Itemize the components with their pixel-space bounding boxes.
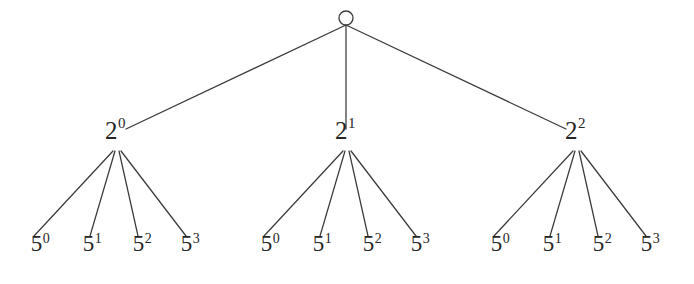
- leaf-node-label: 53: [411, 232, 430, 255]
- leaf-node-label-exponent: 2: [605, 231, 612, 246]
- leaf-node-label-base: 5: [363, 231, 375, 256]
- leaf-node-label-base: 5: [261, 231, 273, 256]
- leaf-node-label: 52: [363, 232, 382, 255]
- tree-edge-level2-to-leaf: [494, 151, 573, 236]
- leaf-node-label-exponent: 0: [43, 231, 50, 246]
- level2-edge-group: [34, 151, 646, 236]
- leaf-node-label-exponent: 1: [325, 231, 332, 246]
- leaf-node-label-exponent: 2: [145, 231, 152, 246]
- level2-node-label-base: 2: [335, 117, 348, 144]
- leaf-node-label: 51: [313, 232, 332, 255]
- leaf-node-label-exponent: 0: [273, 231, 280, 246]
- level1-edge-group: [126, 25, 566, 129]
- tree-edge-root-to-level2: [346, 25, 566, 129]
- leaf-node-label: 53: [181, 232, 200, 255]
- level2-node-label: 21: [335, 118, 355, 143]
- leaf-node-label-base: 5: [491, 231, 503, 256]
- tree-edge-level2-to-leaf: [90, 151, 115, 236]
- leaf-node-label-exponent: 0: [503, 231, 510, 246]
- leaf-node-label: 51: [83, 232, 102, 255]
- tree-edge-level2-to-leaf: [119, 151, 138, 236]
- leaf-node-label-base: 5: [313, 231, 325, 256]
- leaf-node-label-base: 5: [83, 231, 95, 256]
- leaf-node-label-base: 5: [641, 231, 653, 256]
- leaf-node-label-base: 5: [31, 231, 43, 256]
- tree-edge-level2-to-leaf: [320, 151, 345, 236]
- level2-node-label-exponent: 1: [348, 115, 356, 131]
- leaf-node-label-base: 5: [181, 231, 193, 256]
- leaf-node-label: 50: [31, 232, 50, 255]
- leaf-node-label-exponent: 1: [555, 231, 562, 246]
- leaf-node-label: 50: [491, 232, 510, 255]
- leaf-node-label: 52: [593, 232, 612, 255]
- level2-node-label-exponent: 2: [578, 115, 586, 131]
- tree-edge-level2-to-leaf: [581, 151, 646, 236]
- tree-edge-level2-to-leaf: [121, 151, 186, 236]
- level2-node-label-base: 2: [565, 117, 578, 144]
- root-node-circle: [339, 11, 353, 25]
- leaf-node-label: 52: [133, 232, 152, 255]
- leaf-node-label-base: 5: [543, 231, 555, 256]
- tree-edge-level2-to-leaf: [550, 151, 575, 236]
- leaf-node-label-exponent: 1: [95, 231, 102, 246]
- leaf-node-label: 50: [261, 232, 280, 255]
- leaf-node-label-exponent: 3: [193, 231, 200, 246]
- level2-node-label: 20: [105, 118, 125, 143]
- tree-diagram: 202122505152535051525350515253: [0, 0, 694, 284]
- tree-edge-level2-to-leaf: [579, 151, 598, 236]
- leaf-node-label-exponent: 2: [375, 231, 382, 246]
- leaf-node-label-exponent: 3: [653, 231, 660, 246]
- leaf-node-label-base: 5: [411, 231, 423, 256]
- tree-edge-level2-to-leaf: [34, 151, 113, 236]
- tree-edge-root-to-level2: [126, 25, 346, 129]
- tree-edge-level2-to-leaf: [351, 151, 416, 236]
- tree-edge-level2-to-leaf: [264, 151, 343, 236]
- leaf-node-label: 51: [543, 232, 562, 255]
- leaf-node-label: 53: [641, 232, 660, 255]
- leaf-node-label-exponent: 3: [423, 231, 430, 246]
- level2-node-label: 22: [565, 118, 585, 143]
- root-node-group: [339, 11, 353, 25]
- leaf-node-label-base: 5: [133, 231, 145, 256]
- tree-edge-level2-to-leaf: [349, 151, 368, 236]
- level2-node-label-exponent: 0: [118, 115, 126, 131]
- level2-node-label-base: 2: [105, 117, 118, 144]
- leaf-node-label-base: 5: [593, 231, 605, 256]
